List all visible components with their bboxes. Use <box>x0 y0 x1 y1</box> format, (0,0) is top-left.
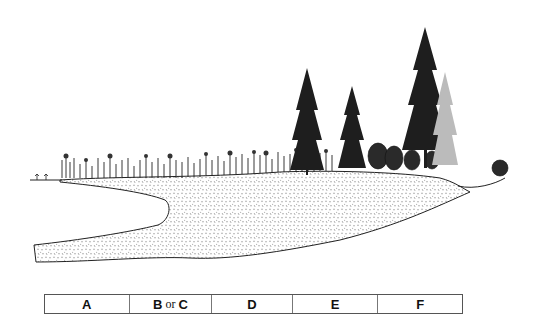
zone-b-label: B <box>153 297 162 312</box>
zone-f: F <box>378 295 462 313</box>
zone-d: D <box>212 295 293 313</box>
peat-mass <box>34 171 470 262</box>
zone-d-label: D <box>247 297 256 312</box>
floating-plant-icons <box>35 174 48 180</box>
zone-b-or-c: B or C <box>130 295 213 313</box>
zone-e-label: E <box>331 297 340 312</box>
zone-a-label: A <box>82 297 91 312</box>
bank-edge <box>458 178 505 187</box>
zone-or-text: or <box>165 297 175 312</box>
peat-succession-illustration <box>0 0 544 285</box>
zone-label-bar: A B or C D E F <box>44 294 463 314</box>
spruce-tree-1 <box>290 68 324 175</box>
zone-e: E <box>293 295 379 313</box>
zone-c-label: C <box>178 297 187 312</box>
zone-a: A <box>45 295 130 313</box>
spruce-tree-2 <box>338 86 366 168</box>
zone-f-label: F <box>416 297 424 312</box>
